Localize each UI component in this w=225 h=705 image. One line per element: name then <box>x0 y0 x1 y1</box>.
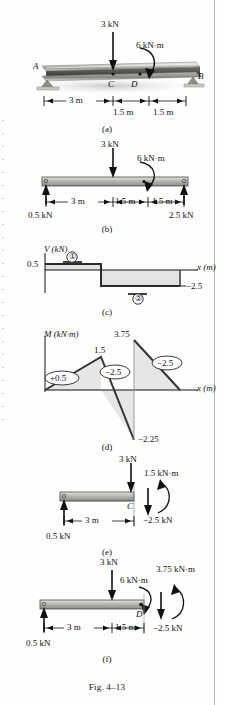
panel-f-node-d-label: D <box>136 610 143 619</box>
shear-region-2-fill <box>101 270 180 286</box>
dim-arrow-1 <box>47 99 53 104</box>
panel-e-node-c-label: C <box>127 502 133 511</box>
textbook-figure-page: 3 kN 6 kN·m A B C D 3 m 1.5 m 1.5 m (a) <box>0 0 225 705</box>
panel-b-reaction-left-label: 0.5 kN <box>28 211 53 220</box>
dim-arrow-b-2 <box>104 200 110 205</box>
moment-head-e <box>157 479 166 490</box>
panel-f-internal-moment-label: 3.75 kN·m <box>156 565 195 574</box>
panel-c-y-axis-label: V (kN) <box>44 245 68 254</box>
panel-b-reaction-right-label: 2.5 kN <box>169 211 194 220</box>
panel-b-free-body-diagram: 3 kN 6 kN·m 3 m 1.5 m 1.5 m 0.5 kN 2.5 k… <box>0 140 214 245</box>
panel-c-tag: (c) <box>0 307 214 317</box>
dim-arrow-4 <box>140 99 146 104</box>
panel-d-x-axis-label: x (m) <box>197 384 216 393</box>
panel-b-dim-1-label: 3 m <box>71 197 85 206</box>
panel-d-peak-2-label: 3.75 <box>114 330 130 339</box>
load-arrow-head-b <box>109 167 117 178</box>
dim-arrow-3 <box>116 99 122 104</box>
moment-head-f <box>171 584 180 595</box>
panel-c-value-start: 0.5 <box>27 260 38 269</box>
dim-arrow-b-4 <box>139 200 145 205</box>
panel-f-dim-1-label: 3 m <box>67 623 81 632</box>
panel-b-couple-label: 6 kN·m <box>137 154 165 163</box>
panel-a-beam-rendering: 3 kN 6 kN·m A B C D 3 m 1.5 m 1.5 m (a) <box>0 0 214 140</box>
panel-e-internal-shear-label: −2.5 kN <box>143 516 173 525</box>
panel-b-tag: (b) <box>0 224 214 234</box>
panel-e-tag: (e) <box>0 547 214 557</box>
panel-e-point-load-label: 3 kN <box>119 455 137 464</box>
support-base-b <box>184 84 204 87</box>
dim-arrow-5 <box>152 99 158 104</box>
panel-f-point-load-label: 3 kN <box>100 558 118 567</box>
dim-arrow-b-1 <box>49 200 55 205</box>
panel-a-node-d-label: D <box>131 80 138 89</box>
panel-d-slope-3-label: −2.5 <box>157 359 173 368</box>
panel-a-dim-2-label: 1.5 m <box>113 108 134 117</box>
dim-arrow-e-1 <box>67 519 73 524</box>
shear-head-f <box>157 609 165 620</box>
panel-f-reaction-left-label: 0.5 kN <box>26 639 51 648</box>
panel-a-couple-label: 6 kN·m <box>136 41 164 50</box>
panel-a-dim-3-label: 1.5 m <box>153 108 174 117</box>
panel-b-point-load-label: 3 kN <box>101 140 119 149</box>
dim-arrow-6 <box>177 99 183 104</box>
panel-d-slope-2-label: −2.5 <box>105 368 121 377</box>
panel-d-moment-diagram: M (kN·m) x (m) 1.5 3.75 −2.25 +0.5 −2.5 … <box>0 330 214 455</box>
panel-d-slope-1-label: +0.5 <box>50 374 66 383</box>
panel-c-region-2-label: ② <box>135 295 142 303</box>
load-head-f <box>108 590 116 601</box>
support-base-a <box>37 87 59 90</box>
panel-d-y-axis-label: M (kN·m) <box>44 330 79 339</box>
panel-a-dim-1-label: 3 m <box>69 96 83 105</box>
panel-f-tag: (f) <box>0 654 214 664</box>
panel-d-tag: (d) <box>0 442 214 452</box>
panel-a-point-load-label: 3 kN <box>101 20 119 29</box>
beam-segment-f <box>40 600 144 609</box>
dim-arrow-f-1 <box>47 626 53 631</box>
panel-e-internal-moment-label: 1.5 kN·m <box>144 469 179 478</box>
dim-arrow-f-4 <box>135 626 141 631</box>
beam-bar <box>42 177 188 186</box>
column-rule <box>214 0 215 705</box>
panel-f-dim-2-label: 1.5 m <box>115 623 136 632</box>
panel-c-region-1-label: ① <box>69 253 76 261</box>
panel-c-x-axis-label: x (m) <box>197 263 216 272</box>
panel-a-tag: (a) <box>0 124 214 134</box>
panel-e-section-fbd-left: 3 kN 1.5 kN·m −2.5 kN C 3 m 0.5 kN (e) <box>0 455 214 570</box>
panel-c-shear-diagram: V (kN) x (m) 0.5 −2.5 ① ② (c) <box>0 245 214 330</box>
dim-arrow-f-2 <box>103 626 109 631</box>
dim-arrow-e-2 <box>125 519 131 524</box>
panel-a-node-c-label: C <box>108 80 114 89</box>
panel-d-peak-1-label: 1.5 <box>94 346 105 355</box>
panel-a-node-a-label: A <box>33 62 39 71</box>
panel-b-dim-3-label: 1.5 m <box>152 197 173 206</box>
dim-arrow-b-6 <box>175 200 181 205</box>
point-c-marker <box>111 72 114 75</box>
panel-f-section-fbd-right: 3 kN 6 kN·m 3.75 kN·m −2.5 kN D 3 m 1.5 … <box>0 570 214 680</box>
dim-arrow-2 <box>104 99 110 104</box>
panel-e-dim-1-label: 3 m <box>85 516 99 525</box>
panel-f-internal-shear-label: −2.5 kN <box>153 624 183 633</box>
panel-c-value-end: −2.5 <box>186 282 202 291</box>
panel-b-dim-2-label: 1.5 m <box>115 197 136 206</box>
couple-point-d <box>138 72 141 75</box>
panel-e-reaction-left-label: 0.5 kN <box>46 532 71 541</box>
panel-f-couple-label: 6 kN·m <box>120 576 148 585</box>
figure-caption: Fig. 4–13 <box>0 682 214 692</box>
panel-a-node-b-label: B <box>198 72 204 81</box>
beam-segment-e <box>60 492 134 501</box>
